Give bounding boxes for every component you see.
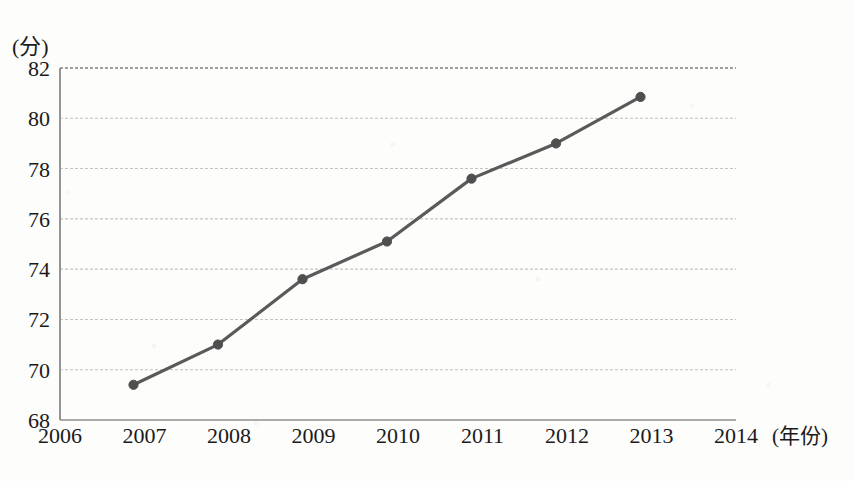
- axis-lines-group: [60, 68, 736, 420]
- x-tick-label: 2013: [630, 423, 674, 448]
- x-tick-label: 2007: [123, 423, 167, 448]
- x-tick-label: 2008: [207, 423, 251, 448]
- y-tick-label: 72: [28, 307, 50, 332]
- x-tick-label: 2010: [376, 423, 420, 448]
- data-point-marker: 2011: 77.6: [467, 174, 476, 183]
- x-tick-label: 2009: [292, 423, 336, 448]
- data-point-marker: 2009: 73.6: [298, 275, 307, 284]
- gridlines-group: [60, 68, 736, 420]
- x-tick-label: 2011: [461, 423, 504, 448]
- line-chart: 6870727476788082 20062007200820092010201…: [0, 0, 854, 481]
- y-tick-label: 82: [28, 56, 50, 81]
- y-tick-label: 76: [28, 207, 50, 232]
- data-point-marker: 2008: 71: [213, 340, 222, 349]
- x-axis-tick-labels: 200620072008200920102011201220132014: [38, 423, 758, 448]
- x-tick-label: 2014: [714, 423, 758, 448]
- data-point-marker: 2013: 80.85: [636, 92, 645, 101]
- x-tick-label: 2012: [545, 423, 589, 448]
- chart-page: (分) 6870727476788082 2006200720082009201…: [0, 0, 854, 481]
- y-tick-label: 74: [28, 257, 50, 282]
- data-point-marker: 2012: 79: [551, 139, 560, 148]
- y-tick-label: 78: [28, 157, 50, 182]
- x-axis-unit-label: (年份): [772, 424, 828, 448]
- y-axis-tick-labels: 6870727476788082: [28, 56, 50, 433]
- data-point-marker: 2007: 69.4: [129, 380, 138, 389]
- x-axis-unit-text: (年份): [772, 424, 828, 448]
- data-point-marker: 2010: 75.1: [382, 237, 391, 246]
- y-tick-label: 70: [28, 358, 50, 383]
- y-tick-label: 80: [28, 106, 50, 131]
- x-tick-label: 2006: [38, 423, 82, 448]
